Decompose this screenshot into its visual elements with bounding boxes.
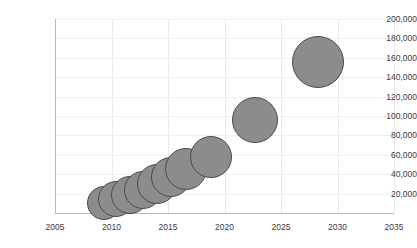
- y-tick-label: 80,000: [365, 130, 417, 140]
- x-tick-label: 2030: [318, 222, 358, 232]
- y-tick-label: 100,000: [365, 111, 417, 121]
- x-tick-label: 2015: [148, 222, 188, 232]
- y-tick-label: 40,000: [365, 169, 417, 179]
- y-tick-label: 60,000: [365, 150, 417, 160]
- x-tick-label: 2020: [205, 222, 245, 232]
- y-tick-label: 140,000: [365, 72, 417, 82]
- data-bubble[interactable]: [190, 136, 232, 178]
- bubble-chart: 20,00040,00060,00080,000100,000120,00014…: [0, 0, 417, 248]
- data-bubble[interactable]: [232, 97, 278, 143]
- y-tick-label: 120,000: [365, 92, 417, 102]
- y-tick-label: 180,000: [365, 33, 417, 43]
- y-tick-label: 20,000: [365, 189, 417, 199]
- x-tick-label: 2005: [35, 222, 75, 232]
- y-tick-label: 160,000: [365, 53, 417, 63]
- x-tick-label: 2025: [261, 222, 301, 232]
- x-tick-label: 2035: [374, 222, 414, 232]
- y-tick-label: 200,000: [365, 14, 417, 24]
- x-tick-label: 2010: [92, 222, 132, 232]
- data-bubbles: [0, 0, 417, 248]
- data-bubble[interactable]: [292, 36, 344, 88]
